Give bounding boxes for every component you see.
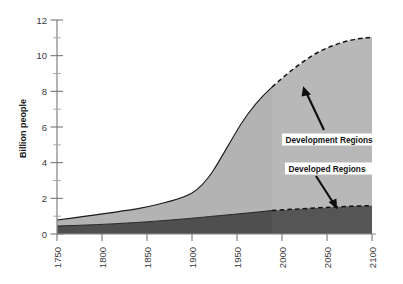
x-ticklabel-1950: 1950 [232,247,243,268]
y-ticklabel-2: 2 [42,193,47,204]
x-ticklabel-2100: 2100 [367,247,378,268]
chart-canvas: 12 10 8 6 4 2 0 Billion people 1750 1800… [0,0,403,284]
y-ticklabel-10: 10 [36,50,47,61]
x-ticklabel-1900: 1900 [187,247,198,268]
area-developed-regions-projection [272,206,372,235]
developed-regions-label-group: Developed Regions [285,163,377,175]
y-ticklabel-8: 8 [42,86,47,97]
x-ticklabel-1800: 1800 [97,247,108,268]
development-regions-label: Development Regions [286,135,374,145]
y-ticklabel-12: 12 [36,15,47,26]
x-ticklabel-2000: 2000 [277,247,288,268]
x-ticklabel-1850: 1850 [142,247,153,268]
population-area-chart: 12 10 8 6 4 2 0 Billion people 1750 1800… [0,0,403,284]
y-ticklabel-6: 6 [42,122,47,133]
developed-regions-label: Developed Regions [289,164,366,174]
y-axis-title: Billion people [18,99,28,158]
development-regions-label-group: Development Regions [282,134,380,146]
y-ticklabel-0: 0 [42,229,47,240]
x-ticklabel-1750: 1750 [52,247,63,268]
x-ticklabel-2050: 2050 [322,247,333,268]
y-ticklabel-4: 4 [42,157,47,168]
